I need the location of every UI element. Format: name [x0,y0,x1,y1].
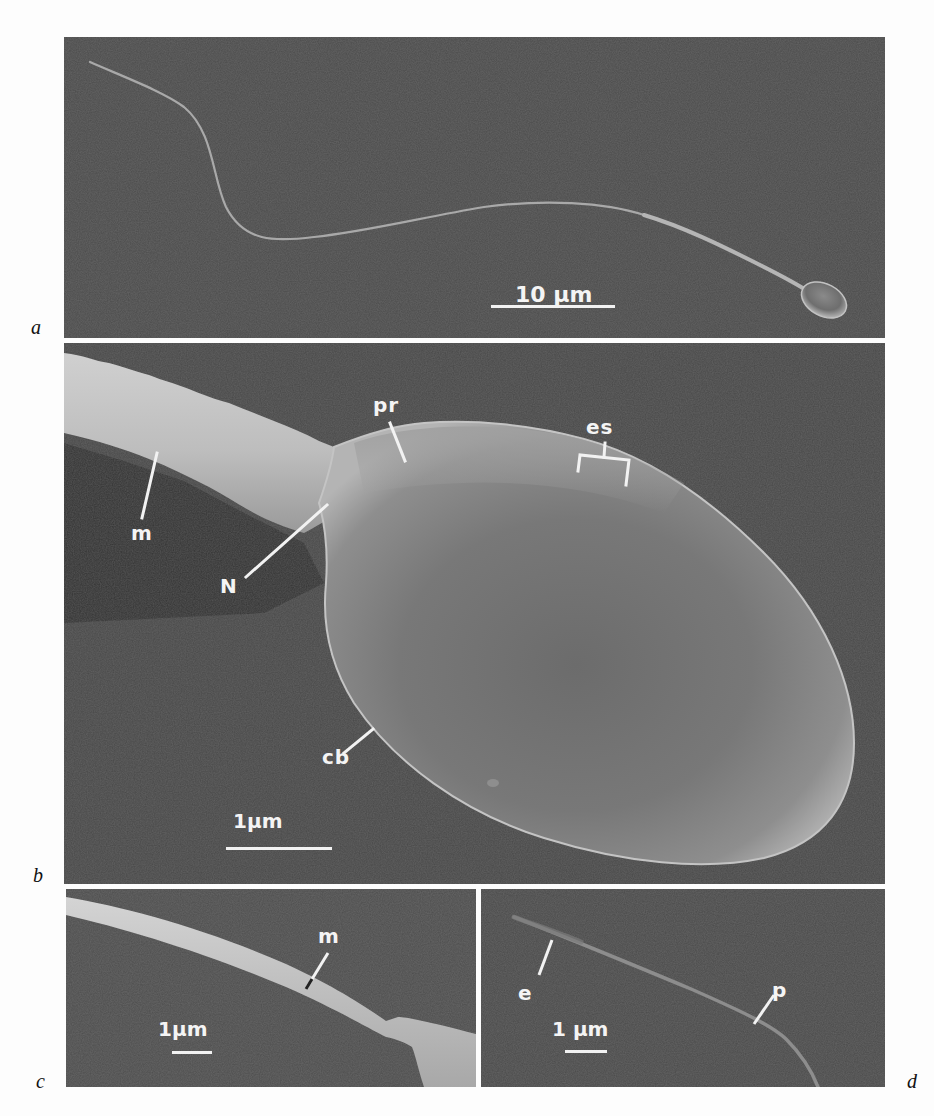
panel-label-a: a [31,316,41,339]
panel-b: pr es m N cb 1µm [64,343,885,884]
sperm-overview-image [64,37,885,338]
flagellum-tip-image [481,889,885,1087]
panel-label-d: d [907,1070,917,1093]
label-m: m [131,523,153,543]
scale-bar [226,847,332,850]
scale-bar-label: 1µm [233,811,282,831]
scale-bar [491,305,615,308]
label-es: es [586,417,613,437]
sperm-head-image [64,343,885,884]
label-pr: pr [373,395,399,415]
panel-c: m 1µm [66,889,476,1087]
scale-bar-label: 1µm [158,1019,207,1039]
scale-bar-label: 1 µm [552,1019,608,1039]
panel-a: 10 µm [64,37,885,338]
panel-label-c: c [36,1070,45,1093]
panel-label-b: b [33,864,43,887]
label-N: N [220,576,238,596]
panel-d: e p 1 µm [481,889,885,1087]
scale-bar [565,1050,607,1053]
label-e: e [518,983,533,1003]
midpiece-image [66,889,476,1087]
label-m: m [318,926,340,946]
label-p: p [772,980,787,1000]
scale-bar [172,1051,212,1054]
scale-bar-label: 10 µm [515,284,592,306]
label-cb: cb [322,747,350,767]
